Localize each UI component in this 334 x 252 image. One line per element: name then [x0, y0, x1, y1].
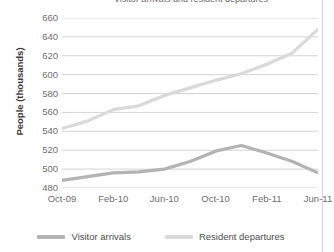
- plot-svg: [62, 18, 318, 188]
- legend-swatch: [37, 235, 65, 239]
- series-line: [62, 146, 318, 181]
- y-tick-label: 480: [14, 183, 58, 193]
- figure-right-border: [322, 0, 323, 252]
- legend-label: Resident departures: [199, 231, 285, 242]
- series-line: [62, 29, 318, 128]
- x-tick-label: Feb-10: [92, 193, 134, 204]
- legend-item[interactable]: Visitor arrivals: [37, 231, 130, 242]
- legend-label: Visitor arrivals: [71, 231, 130, 242]
- legend-item[interactable]: Resident departures: [165, 231, 285, 242]
- x-tick-label: Jun-11: [297, 193, 334, 204]
- legend-swatch: [165, 235, 193, 239]
- y-tick-label: 500: [14, 164, 58, 174]
- x-tick-label: Jun-10: [143, 193, 185, 204]
- chart-figure: Visitor arrivals and resident departures…: [0, 0, 334, 252]
- chart-legend: Visitor arrivalsResident departures: [0, 231, 322, 242]
- y-tick-label: 600: [14, 70, 58, 80]
- y-axis-tick-labels: 660640620600580560540520500480: [10, 0, 58, 252]
- y-tick-label: 540: [14, 126, 58, 136]
- y-tick-label: 560: [14, 107, 58, 117]
- x-tick-label: Oct-09: [41, 193, 83, 204]
- y-tick-label: 620: [14, 51, 58, 61]
- chart-title: Visitor arrivals and resident departures: [60, 0, 322, 4]
- y-tick-label: 520: [14, 145, 58, 155]
- plot-area: [62, 18, 318, 188]
- series-lines: [62, 29, 318, 180]
- y-tick-label: 580: [14, 89, 58, 99]
- x-tick-label: Feb-11: [246, 193, 288, 204]
- y-tick-label: 660: [14, 13, 58, 23]
- x-tick-label: Oct-10: [195, 193, 237, 204]
- x-axis-tick-labels: Oct-09Feb-10Jun-10Oct-10Feb-11Jun-11: [0, 193, 334, 207]
- y-tick-label: 640: [14, 32, 58, 42]
